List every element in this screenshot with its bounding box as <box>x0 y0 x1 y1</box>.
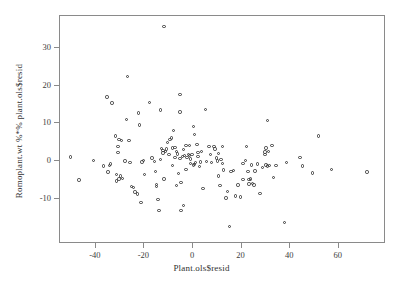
x-tick-label: -40 <box>80 251 110 260</box>
x-axis-title: Plant.ols$resid <box>0 263 403 273</box>
y-tick-label: 0 <box>25 156 51 165</box>
y-axis-title: Romoplant.wt %*% plant.ols$resid <box>14 31 24 231</box>
y-tick-mark <box>54 85 59 86</box>
scatter-plot-figure: -40-2002040603020100-10 Plant.ols$resid … <box>0 0 403 286</box>
x-tick-label: 60 <box>323 251 353 260</box>
y-tick-label: 10 <box>25 118 51 127</box>
y-tick-label: 30 <box>25 43 51 52</box>
x-tick-mark <box>192 243 193 248</box>
x-tick-label: -20 <box>128 251 158 260</box>
x-tick-mark <box>338 243 339 248</box>
x-tick-mark <box>241 243 242 248</box>
x-tick-mark <box>95 243 96 248</box>
y-tick-mark <box>54 160 59 161</box>
y-tick-label: 20 <box>25 81 51 90</box>
x-tick-label: 40 <box>274 251 304 260</box>
y-tick-mark <box>54 47 59 48</box>
y-tick-mark <box>54 198 59 199</box>
y-tick-label: -10 <box>25 194 51 203</box>
x-tick-mark <box>289 243 290 248</box>
x-tick-label: 0 <box>177 251 207 260</box>
y-tick-mark <box>54 122 59 123</box>
x-tick-label: 20 <box>226 251 256 260</box>
plot-area-frame <box>59 15 385 243</box>
x-tick-mark <box>143 243 144 248</box>
